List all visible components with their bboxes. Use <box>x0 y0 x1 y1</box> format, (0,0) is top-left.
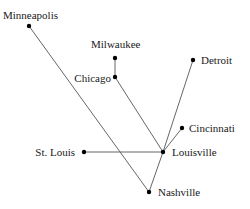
edge-chicago-louisville <box>115 77 163 152</box>
label-nashville: Nashville <box>158 186 200 198</box>
node-stlouis-dot-icon <box>82 150 86 154</box>
node-chicago-dot-icon <box>113 75 117 79</box>
label-cincinnati: Cincinnati <box>189 122 235 134</box>
edge-minneapolis-nashville <box>29 26 149 192</box>
edge-detroit-louisville <box>163 60 193 152</box>
label-milwaukee: Milwaukee <box>91 38 141 50</box>
label-louisville: Louisville <box>172 146 217 158</box>
label-minneapolis: Minneapolis <box>3 9 58 21</box>
node-milwaukee-dot-icon <box>113 56 117 60</box>
node-cincinnati-dot-icon <box>180 126 184 130</box>
node-louisville-dot-icon <box>161 150 165 154</box>
node-nashville-dot-icon <box>147 190 151 194</box>
label-stlouis: St. Louis <box>35 146 75 158</box>
label-detroit: Detroit <box>201 54 232 66</box>
node-detroit-dot-icon <box>191 58 195 62</box>
node-minneapolis-dot-icon <box>27 24 31 28</box>
label-chicago: Chicago <box>74 72 111 84</box>
labels-layer: MinneapolisMilwaukeeChicagoDetroitCincin… <box>3 9 235 198</box>
edges-layer <box>29 26 193 192</box>
city-network-diagram: MinneapolisMilwaukeeChicagoDetroitCincin… <box>0 0 250 209</box>
